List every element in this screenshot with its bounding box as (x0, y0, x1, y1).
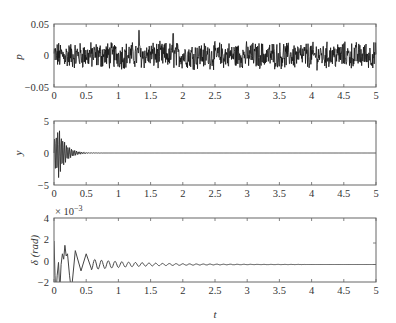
y-series-line (54, 131, 376, 178)
x-tick-label: 4.5 (337, 188, 350, 199)
x-tick-label: 0.5 (80, 90, 93, 101)
x-tick-label: 1.5 (144, 285, 157, 296)
x-tick-label: 2.5 (208, 285, 221, 296)
y-ytick-top: 5 (44, 116, 49, 127)
x-tick-label: 4.5 (337, 285, 350, 296)
x-tick-label: 3.5 (273, 188, 286, 199)
x-tick-label: 3 (245, 188, 250, 199)
x-tick-label: 3.5 (273, 285, 286, 296)
x-tick-label: 2 (180, 188, 185, 199)
y-ytick-mid: 0 (44, 148, 49, 159)
p-series-line (54, 30, 376, 70)
x-tick-label: 1.5 (144, 188, 157, 199)
delta-ytick-2: 2 (44, 234, 49, 245)
x-tick-label: 0 (51, 188, 56, 199)
p-ytick-top: 0.05 (31, 19, 49, 30)
x-tick-label: 1 (116, 285, 121, 296)
delta-axes-box (54, 218, 376, 282)
delta-x-ticks: 00.511.522.533.544.55 (51, 218, 378, 296)
x-tick-label: 3 (245, 90, 250, 101)
x-tick-label: 3 (245, 285, 250, 296)
y-ylabel: y (12, 150, 24, 156)
x-tick-label: 2 (180, 285, 185, 296)
p-ytick-mid: 0 (44, 50, 49, 61)
x-tick-label: 5 (373, 285, 378, 296)
x-tick-label: 2.5 (208, 188, 221, 199)
delta-ytick-neg2: −2 (38, 277, 49, 288)
x-tick-label: 1.5 (144, 90, 157, 101)
panel-y: 00.511.522.533.544.55 5 0 −5 y (12, 116, 379, 199)
x-tick-label: 5 (373, 188, 378, 199)
p-ytick-bottom: −0.05 (25, 82, 49, 93)
x-tick-label: 2.5 (208, 90, 221, 101)
x-tick-label: 4 (309, 90, 315, 101)
x-tick-label: 0 (51, 285, 56, 296)
panel-delta: 00.511.522.533.544.55 4 2 0 −2 × 10−3 δ … (28, 204, 379, 320)
x-tick-label: 5 (373, 90, 378, 101)
delta-ytick-0: 0 (44, 256, 49, 267)
y-ytick-bottom: −5 (38, 180, 49, 191)
delta-ytick-4: 4 (44, 213, 50, 224)
x-tick-label: 2 (180, 90, 185, 101)
x-tick-label: 1 (116, 188, 121, 199)
x-tick-label: 3.5 (273, 90, 286, 101)
panel-p: 00.511.522.533.544.55 0.05 0 −0.05 p (12, 19, 379, 101)
x-tick-label: 1 (116, 90, 121, 101)
figure: 00.511.522.533.544.55 0.05 0 −0.05 p 00.… (0, 0, 396, 323)
x-tick-label: 4.5 (337, 90, 350, 101)
x-axis-label: t (213, 308, 217, 320)
delta-multiplier: × 10−3 (55, 204, 83, 217)
x-tick-label: 0.5 (80, 188, 93, 199)
x-tick-label: 4 (309, 188, 315, 199)
y-x-ticks: 00.511.522.533.544.55 (51, 121, 378, 199)
x-tick-label: 0.5 (80, 285, 93, 296)
p-ylabel: p (12, 54, 24, 61)
delta-ylabel: δ (rad) (28, 234, 41, 265)
x-tick-label: 0 (51, 90, 56, 101)
x-tick-label: 4 (309, 285, 315, 296)
